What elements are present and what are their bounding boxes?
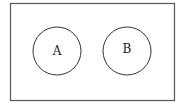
set-a-label: A	[52, 44, 62, 58]
set-b-label: B	[123, 42, 132, 56]
venn-diagram: A B	[0, 0, 182, 105]
universal-set-rectangle	[11, 4, 175, 101]
